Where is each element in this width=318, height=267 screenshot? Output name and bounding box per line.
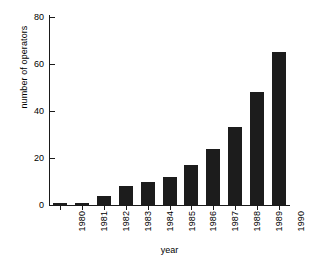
x-tick-mark xyxy=(191,206,192,210)
x-tick-label: 1990 xyxy=(296,211,306,245)
bar xyxy=(206,149,220,205)
x-tick-label: 1981 xyxy=(99,211,109,245)
x-tick-mark xyxy=(82,206,83,210)
x-tick-label: 1987 xyxy=(230,211,240,245)
y-tick-mark xyxy=(50,111,55,112)
bar xyxy=(272,52,286,205)
y-tick-mark xyxy=(50,158,55,159)
y-tick-label: 0 xyxy=(18,201,44,210)
x-tick-label: 1983 xyxy=(143,211,153,245)
y-tick-mark xyxy=(50,205,55,206)
x-tick-mark xyxy=(60,206,61,210)
y-tick-label: 80 xyxy=(18,13,44,22)
x-tick-mark xyxy=(126,206,127,210)
x-tick-label: 1984 xyxy=(165,211,175,245)
x-tick-label: 1989 xyxy=(274,211,284,245)
x-axis-title: year xyxy=(49,245,290,256)
bar xyxy=(141,182,155,205)
bar xyxy=(163,177,177,205)
x-tick-mark xyxy=(170,206,171,210)
x-tick-mark xyxy=(235,206,236,210)
bar-chart: number of operators 020406080 1980198119… xyxy=(0,0,318,267)
y-tick-mark xyxy=(50,17,55,18)
bar xyxy=(184,165,198,205)
bar xyxy=(53,203,67,205)
bar xyxy=(97,196,111,205)
y-axis-line xyxy=(49,15,50,205)
bar xyxy=(119,186,133,205)
x-tick-label: 1988 xyxy=(252,211,262,245)
x-tick-mark xyxy=(257,206,258,210)
y-tick-label: 20 xyxy=(18,154,44,163)
x-tick-label: 1986 xyxy=(208,211,218,245)
x-tick-mark xyxy=(148,206,149,210)
x-tick-label: 1980 xyxy=(77,211,87,245)
x-tick-mark xyxy=(279,206,280,210)
bar xyxy=(250,92,264,205)
x-tick-label: 1985 xyxy=(187,211,197,245)
y-tick-label: 40 xyxy=(18,107,44,116)
bar xyxy=(75,203,89,205)
y-tick-label: 60 xyxy=(18,60,44,69)
bar xyxy=(228,127,242,205)
x-tick-label: 1982 xyxy=(121,211,131,245)
x-tick-mark xyxy=(104,206,105,210)
y-tick-mark xyxy=(50,64,55,65)
x-tick-mark xyxy=(213,206,214,210)
